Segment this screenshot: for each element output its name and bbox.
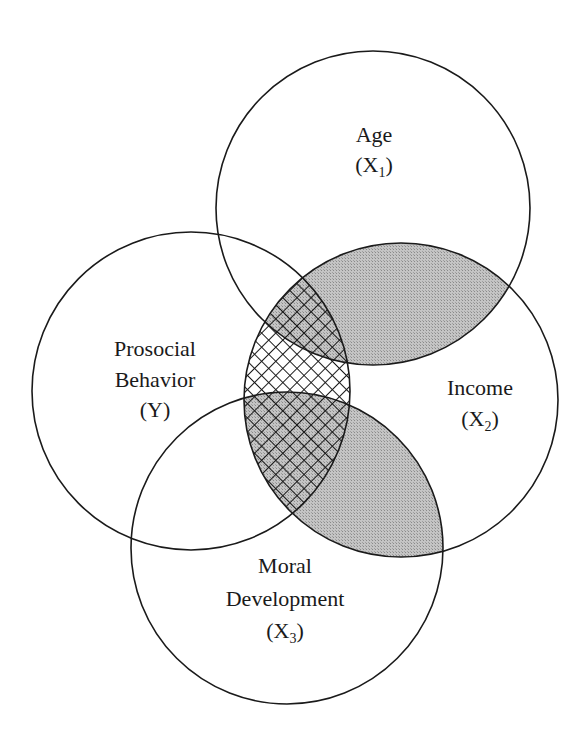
label-behavior: Behavior <box>115 367 196 392</box>
venn-diagram: Age (X1) Prosocial Behavior (Y) Income (… <box>0 0 583 736</box>
label-moral: Moral <box>258 553 312 578</box>
label-income: Income <box>447 375 513 400</box>
label-moral-symbol: (X3) <box>266 618 304 646</box>
label-development: Development <box>226 586 345 611</box>
label-prosocial: Prosocial <box>114 336 196 361</box>
label-y-symbol: (Y) <box>140 397 171 422</box>
label-age-symbol: (X1) <box>355 152 393 180</box>
region-x1-x2-gray <box>216 51 530 365</box>
label-income-symbol: (X2) <box>461 406 499 434</box>
label-age: Age <box>356 122 393 147</box>
